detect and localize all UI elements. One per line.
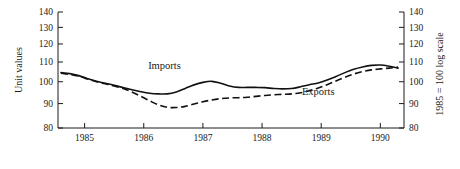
- year-tick-label: 1985: [75, 133, 94, 143]
- right-tick-label: 110: [409, 57, 423, 67]
- left-tick-label: 100: [39, 77, 54, 87]
- right-tick-label: 130: [409, 23, 424, 33]
- series-label-exports: Exports: [302, 86, 335, 97]
- left-axis-title: Unit values: [13, 47, 24, 93]
- right-tick-label: 100: [409, 77, 424, 87]
- right-tick-label: 140: [409, 7, 424, 17]
- series-annotations: ImportsExports: [148, 60, 334, 97]
- series-label-imports: Imports: [148, 60, 181, 71]
- right-tick-label: 80: [409, 123, 419, 133]
- left-tick-label: 90: [44, 99, 54, 109]
- left-tick-label: 80: [44, 123, 54, 133]
- series-line-imports: [61, 65, 398, 94]
- left-tick-label: 110: [39, 57, 53, 67]
- chart-container: 8090100110120130140 8090100110120130140 …: [0, 0, 460, 169]
- right-axis-title: 1985 = 100 log scale: [434, 32, 445, 116]
- year-tick-label: 1988: [253, 133, 272, 143]
- left-tick-label: 130: [39, 23, 54, 33]
- left-tick-label: 120: [39, 39, 54, 49]
- right-value-axis: 8090100110120130140: [399, 7, 424, 133]
- series-lines: [61, 65, 398, 108]
- series-line-exports: [61, 67, 398, 108]
- year-axis: 198519861987198819891990: [58, 123, 404, 143]
- year-tick-label: 1987: [193, 133, 212, 143]
- right-tick-label: 90: [409, 99, 419, 109]
- year-tick-label: 1986: [134, 133, 153, 143]
- left-tick-label: 140: [39, 7, 54, 17]
- left-value-axis: 8090100110120130140: [39, 7, 63, 133]
- line-chart: 8090100110120130140 8090100110120130140 …: [0, 0, 460, 169]
- year-tick-label: 1989: [312, 133, 331, 143]
- right-tick-label: 120: [409, 39, 424, 49]
- year-tick-label: 1990: [371, 133, 390, 143]
